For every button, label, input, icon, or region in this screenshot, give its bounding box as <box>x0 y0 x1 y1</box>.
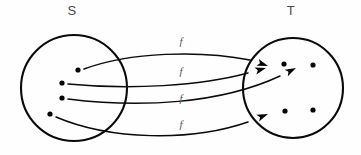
mapping-arc <box>68 73 248 87</box>
mapping-label: f <box>179 65 184 77</box>
mapping-labels-group: ffff <box>179 35 184 130</box>
set-label-s: S <box>67 3 76 18</box>
set-element-dot <box>310 107 315 112</box>
set-element-dot <box>310 62 315 67</box>
set-boundary-s <box>21 35 127 141</box>
mapping-arc <box>84 54 250 69</box>
set-label-t: T <box>287 3 295 18</box>
set-element-dot <box>47 111 52 116</box>
diagram-canvas: S T ffff <box>0 0 361 155</box>
arrow-head-icon <box>285 65 298 76</box>
set-element-dot <box>75 67 80 72</box>
mapping-arcs-group <box>56 54 298 136</box>
mapping-label: f <box>179 92 184 104</box>
set-mapping-figure: S T ffff <box>0 0 361 155</box>
set-element-dot <box>59 95 64 100</box>
set-element-dot <box>59 80 64 85</box>
arrow-head-icon <box>256 111 269 122</box>
mapping-label: f <box>179 118 184 130</box>
set-element-dot <box>281 61 286 66</box>
set-boundary-t <box>243 38 343 138</box>
arrow-head-icon <box>254 65 267 75</box>
mapping-arc <box>68 76 280 103</box>
mapping-arc <box>56 117 248 136</box>
set-element-dot <box>282 108 287 113</box>
mapping-label: f <box>179 35 184 47</box>
